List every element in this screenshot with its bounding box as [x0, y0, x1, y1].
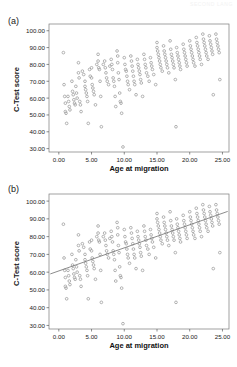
- scatter-point: [161, 70, 164, 73]
- scatter-point: [156, 50, 159, 53]
- scatter-point: [205, 226, 208, 229]
- scatter-point: [67, 269, 70, 272]
- scatter-point: [160, 66, 163, 69]
- scatter-point: [114, 280, 117, 283]
- scatter-point: [84, 85, 87, 88]
- scatter-point: [62, 223, 65, 226]
- scatter-point: [137, 239, 140, 242]
- scatter-point: [143, 58, 146, 61]
- scatter-point: [188, 39, 191, 42]
- scatter-point: [146, 248, 149, 251]
- scatter-point: [78, 77, 81, 80]
- scatter-point: [179, 68, 182, 71]
- scatter-point: [167, 244, 170, 247]
- scatter-point: [199, 58, 202, 61]
- y-tick-label: 60.00: [0, 269, 45, 276]
- scatter-point: [149, 228, 152, 231]
- scatter-point: [175, 46, 178, 49]
- scatter-point: [175, 218, 178, 221]
- scatter-point: [185, 61, 188, 64]
- scatter-point: [128, 88, 131, 91]
- scatter-point: [63, 83, 66, 86]
- regression-line: [50, 211, 227, 274]
- scatter-point: [150, 65, 153, 68]
- scatter-point: [156, 41, 159, 44]
- y-tick-label: 70.00: [0, 78, 45, 85]
- scatter-point: [156, 46, 159, 49]
- scatter-point: [190, 51, 193, 54]
- scatter-point: [84, 80, 87, 83]
- y-tick-label: 70.00: [0, 251, 45, 258]
- scatter-point: [86, 269, 89, 272]
- scatter-point: [162, 45, 165, 48]
- scatter-point: [190, 219, 193, 222]
- scatter-point: [216, 41, 219, 44]
- scatter-point: [91, 83, 94, 86]
- scatter-point: [148, 253, 151, 256]
- scatter-point: [169, 219, 172, 222]
- y-tick-label: 90.00: [0, 215, 45, 222]
- scatter-point: [189, 216, 192, 219]
- scatter-point: [126, 248, 129, 251]
- scatter-point: [80, 110, 83, 113]
- scatter-point: [82, 73, 85, 76]
- scatter-point: [209, 43, 212, 46]
- scatter-point: [188, 210, 191, 213]
- scatter-point: [172, 235, 175, 238]
- scatter-point: [116, 50, 119, 53]
- x-tick-label: 20.00: [175, 156, 205, 163]
- scatter-point: [158, 60, 161, 63]
- scatter-point: [173, 239, 176, 242]
- scatter-point: [203, 45, 206, 48]
- scatter-points: [62, 203, 221, 325]
- scatter-point: [184, 55, 187, 58]
- scatter-point: [86, 100, 89, 103]
- scatter-point: [163, 50, 166, 53]
- scatter-point: [148, 80, 151, 83]
- scatter-point: [157, 53, 160, 56]
- scatter-point: [75, 265, 78, 268]
- scatter-point: [146, 75, 149, 78]
- scatter-point: [118, 265, 121, 268]
- scatter-point: [182, 214, 185, 217]
- scatter-point: [65, 297, 68, 300]
- scatter-point: [67, 95, 70, 98]
- scatter-point: [110, 230, 113, 233]
- scatter-point: [114, 269, 117, 272]
- scatter-point: [158, 56, 161, 59]
- scatter-point: [117, 71, 120, 74]
- scatter-point: [65, 122, 68, 125]
- scatter-point: [211, 221, 214, 224]
- scatter-point: [116, 221, 119, 224]
- scatter-point: [76, 271, 79, 274]
- panel-a: (a) 30.0040.0050.0060.0070.0080.0090.001…: [0, 14, 237, 186]
- scatter-point: [218, 51, 221, 54]
- scatter-point: [145, 66, 148, 69]
- y-tick-label: 40.00: [0, 304, 45, 311]
- scatter-point: [215, 203, 218, 206]
- scatter-point: [97, 225, 100, 228]
- scatter-point: [106, 80, 109, 83]
- scatter-point: [97, 232, 100, 235]
- scatter-point: [192, 61, 195, 64]
- scatter-point: [116, 61, 119, 64]
- scatter-point: [175, 301, 178, 304]
- scatter-point: [198, 226, 201, 229]
- scatter-point: [87, 122, 90, 125]
- scatter-point: [104, 66, 107, 69]
- scatter-point: [130, 232, 133, 235]
- scatter-point: [103, 60, 106, 63]
- scatter-point: [78, 100, 81, 103]
- scatter-point: [130, 60, 133, 63]
- scatter-point: [123, 56, 126, 59]
- scatter-point: [133, 253, 136, 256]
- scatter-point: [164, 225, 167, 228]
- scatter-point: [143, 53, 146, 56]
- scatter-point: [143, 225, 146, 228]
- scatter-point: [150, 234, 153, 237]
- scatter-point: [218, 223, 221, 226]
- scatter-point: [77, 234, 80, 237]
- scatter-point: [167, 71, 170, 74]
- scatter-point: [72, 93, 75, 96]
- scatter-point: [79, 103, 82, 106]
